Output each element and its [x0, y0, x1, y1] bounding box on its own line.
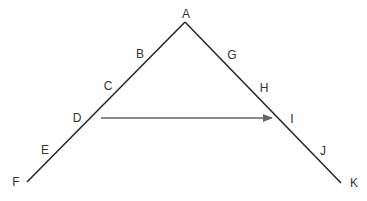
point-label-b: B [136, 48, 144, 60]
point-label-d: D [73, 112, 82, 124]
point-label-i: I [290, 113, 293, 125]
point-label-h: H [260, 82, 269, 94]
left-line [27, 22, 185, 182]
right-line [185, 22, 341, 183]
point-label-f: F [12, 176, 19, 188]
point-label-k: K [350, 177, 358, 189]
point-label-e: E [41, 144, 49, 156]
point-label-g: G [227, 49, 236, 61]
point-label-c: C [104, 80, 113, 92]
point-label-a: A [182, 8, 190, 20]
point-label-j: J [320, 145, 326, 157]
triangle-diagram [0, 0, 367, 201]
